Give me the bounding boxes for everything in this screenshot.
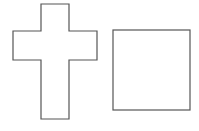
cross-shape [13, 4, 97, 119]
square-shape [113, 30, 190, 110]
diagram-canvas [0, 0, 199, 131]
